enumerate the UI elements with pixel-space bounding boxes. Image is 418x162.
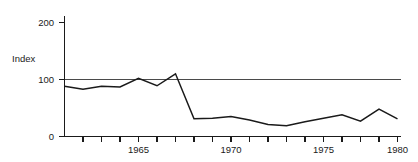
x-tick-label-1980: 1980	[387, 144, 408, 155]
y-tick-label-100: 100	[38, 74, 54, 85]
y-tick-label-0: 0	[49, 131, 54, 142]
y-tick-label-200: 200	[38, 17, 54, 28]
x-tick-marks	[83, 137, 398, 143]
chart-plot-area: 200 100 0 Index 196	[0, 0, 418, 162]
y-axis-title: Index	[12, 53, 35, 64]
x-tick-label-1970: 1970	[220, 144, 241, 155]
x-tick-label-1965: 1965	[128, 144, 149, 155]
x-tick-label-1975: 1975	[313, 144, 334, 155]
data-series-line	[65, 74, 398, 126]
line-chart-figure: 200 100 0 Index 196	[0, 0, 418, 162]
